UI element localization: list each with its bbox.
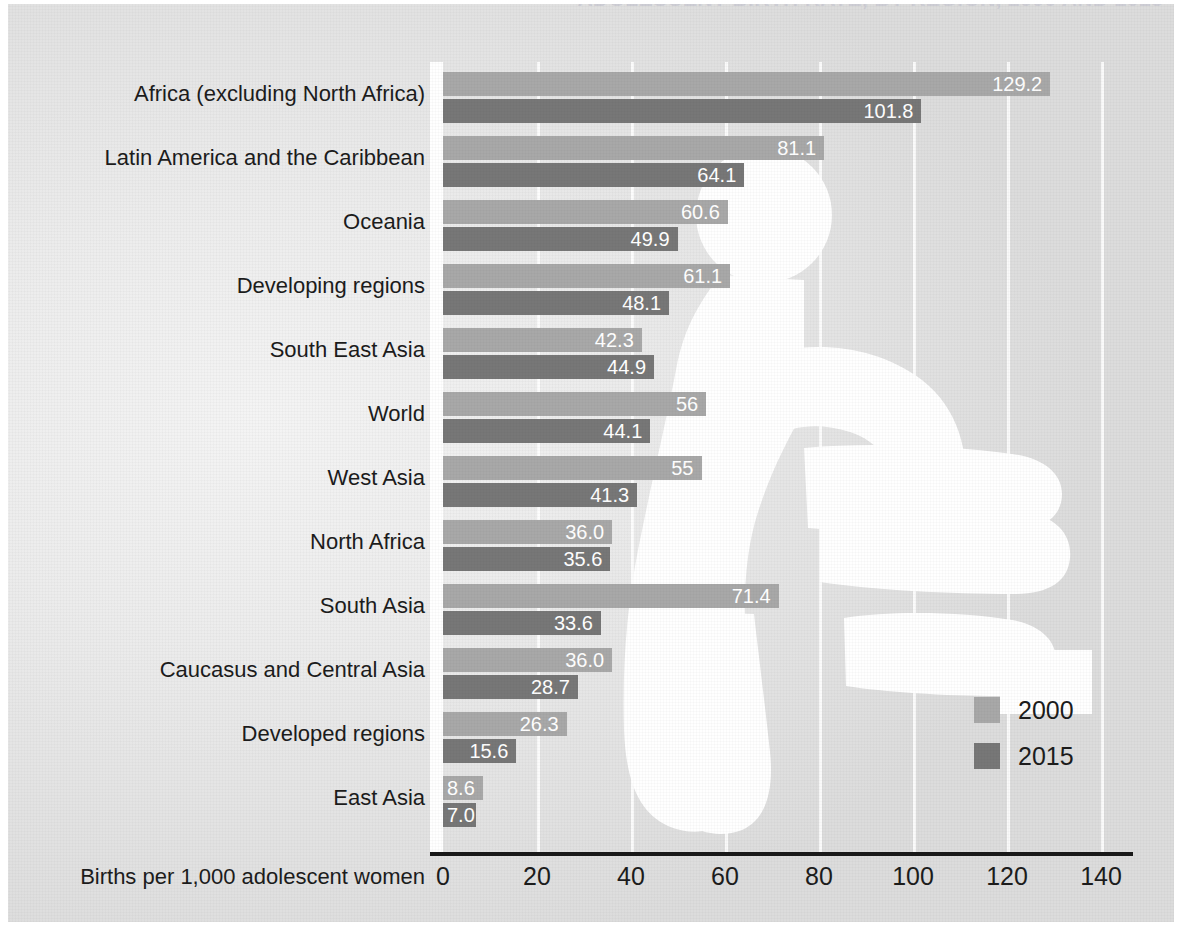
bar-row: 36.035.6 — [443, 517, 1133, 581]
legend-swatch-2015 — [974, 743, 1000, 769]
bar-row: 5644.1 — [443, 389, 1133, 453]
axis-label-births: Births per 1,000 adolescent women — [20, 864, 425, 890]
category-label: World — [0, 401, 425, 427]
bar-2015[interactable]: 33.6 — [443, 611, 601, 635]
category-label: Developing regions — [0, 273, 425, 299]
bar-row: 60.649.9 — [443, 197, 1133, 261]
bar-value-label: 41.3 — [590, 485, 637, 505]
y-axis-band — [430, 62, 443, 852]
bar-row: 129.2101.8 — [443, 69, 1133, 133]
bar-value-label: 7.0 — [443, 805, 475, 825]
x-tick-label: 100 — [892, 862, 934, 891]
legend-label-2000: 2000 — [1018, 696, 1074, 725]
x-tick-label: 140 — [1080, 862, 1122, 891]
bar-row: 5541.3 — [443, 453, 1133, 517]
bar-value-label: 44.1 — [603, 421, 650, 441]
bar-2015[interactable]: 48.1 — [443, 291, 669, 315]
bar-2000[interactable]: 71.4 — [443, 584, 779, 608]
legend-label-2015: 2015 — [1018, 742, 1074, 771]
bar-value-label: 61.1 — [683, 266, 730, 286]
bar-2015[interactable]: 7.0 — [443, 803, 476, 827]
bar-value-label: 64.1 — [697, 165, 744, 185]
bar-row: 71.433.6 — [443, 581, 1133, 645]
bar-2000[interactable]: 36.0 — [443, 520, 612, 544]
bar-2000[interactable]: 81.1 — [443, 136, 824, 160]
bar-value-label: 33.6 — [554, 613, 601, 633]
bar-value-label: 129.2 — [992, 74, 1050, 94]
bar-2000[interactable]: 8.6 — [443, 776, 483, 800]
bar-2000[interactable]: 36.0 — [443, 648, 612, 672]
bar-value-label: 60.6 — [681, 202, 728, 222]
category-label: South Asia — [0, 593, 425, 619]
bar-value-label: 15.6 — [469, 741, 516, 761]
bar-row: 61.148.1 — [443, 261, 1133, 325]
category-label: South East Asia — [0, 337, 425, 363]
bar-value-label: 101.8 — [863, 101, 921, 121]
bar-2000[interactable]: 61.1 — [443, 264, 730, 288]
bar-value-label: 48.1 — [622, 293, 669, 313]
bar-2000[interactable]: 42.3 — [443, 328, 642, 352]
bar-2015[interactable]: 101.8 — [443, 99, 921, 123]
category-label: North Africa — [0, 529, 425, 555]
legend: 2000 2015 — [974, 696, 1074, 788]
bar-value-label: 49.9 — [631, 229, 678, 249]
legend-item-2000[interactable]: 2000 — [974, 696, 1074, 724]
legend-item-2015[interactable]: 2015 — [974, 742, 1074, 770]
category-label: West Asia — [0, 465, 425, 491]
x-tick-label: 20 — [523, 862, 551, 891]
bar-value-label: 36.0 — [565, 650, 612, 670]
bar-value-label: 8.6 — [443, 778, 475, 798]
bar-value-label: 71.4 — [732, 586, 779, 606]
category-label: East Asia — [0, 785, 425, 811]
x-tick-label: 60 — [711, 862, 739, 891]
category-label: Developed regions — [0, 721, 425, 747]
category-label: Oceania — [0, 209, 425, 235]
legend-swatch-2000 — [974, 697, 1000, 723]
bar-2015[interactable]: 64.1 — [443, 163, 744, 187]
bar-value-label: 55 — [671, 458, 701, 478]
bar-2000[interactable]: 60.6 — [443, 200, 728, 224]
bar-2015[interactable]: 44.1 — [443, 419, 650, 443]
x-tick-label: 80 — [805, 862, 833, 891]
bar-2015[interactable]: 15.6 — [443, 739, 516, 763]
chart-page: ADOLESCENT BIRTH RATE, BY REGION, 2000 A… — [0, 0, 1181, 934]
bar-2000[interactable]: 55 — [443, 456, 702, 480]
bar-2000[interactable]: 56 — [443, 392, 706, 416]
bar-row: 42.344.9 — [443, 325, 1133, 389]
category-label: Caucasus and Central Asia — [0, 657, 425, 683]
x-tick-label: 120 — [986, 862, 1028, 891]
bar-2000[interactable]: 129.2 — [443, 72, 1050, 96]
x-axis-line — [430, 852, 1133, 856]
bar-value-label: 56 — [676, 394, 706, 414]
bar-value-label: 35.6 — [563, 549, 610, 569]
bar-2015[interactable]: 28.7 — [443, 675, 578, 699]
bar-value-label: 26.3 — [520, 714, 567, 734]
bar-value-label: 36.0 — [565, 522, 612, 542]
bar-value-label: 81.1 — [777, 138, 824, 158]
bar-row: 81.164.1 — [443, 133, 1133, 197]
bar-value-label: 42.3 — [595, 330, 642, 350]
bar-2015[interactable]: 44.9 — [443, 355, 654, 379]
bar-2000[interactable]: 26.3 — [443, 712, 567, 736]
x-tick-label: 40 — [617, 862, 645, 891]
bar-value-label: 44.9 — [607, 357, 654, 377]
category-label: Africa (excluding North Africa) — [0, 81, 425, 107]
bar-2015[interactable]: 49.9 — [443, 227, 678, 251]
x-tick-label: 0 — [436, 862, 450, 891]
bar-2015[interactable]: 41.3 — [443, 483, 637, 507]
bar-2015[interactable]: 35.6 — [443, 547, 610, 571]
bar-value-label: 28.7 — [531, 677, 578, 697]
category-label: Latin America and the Caribbean — [0, 145, 425, 171]
